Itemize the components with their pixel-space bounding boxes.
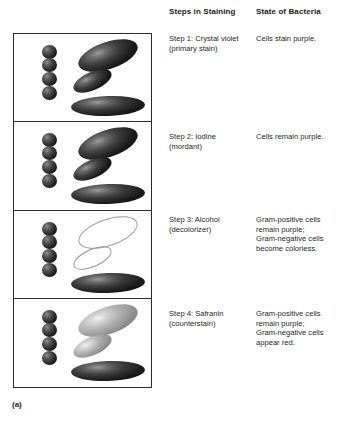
gram-stain-panel-stack: [13, 33, 152, 388]
coccus-cell: [42, 133, 57, 147]
coccus-cell: [42, 323, 57, 337]
panel-step-3: [14, 211, 151, 299]
bacillus-cell-wide: [71, 359, 146, 382]
coccus-cell: [42, 86, 57, 100]
panel-step-1: [14, 34, 151, 122]
coccus-cell: [42, 146, 57, 160]
column-header-steps: Steps in Staining: [169, 7, 236, 16]
coccus-cell: [42, 174, 57, 188]
coccus-cell: [42, 235, 57, 249]
state-label-3: Gram-positive cells remain purple; Gram-…: [256, 215, 352, 253]
step-label-1: Step 1: Crystal violet (primary stain): [169, 34, 253, 53]
bacillus-cell-wide: [71, 271, 146, 294]
coccus-cell: [42, 263, 57, 277]
figure-caption: (a): [12, 400, 22, 409]
bacillus-cell-wide: [71, 183, 146, 206]
coccus-cell: [42, 45, 57, 59]
state-label-4: Gram-positive cells remain purple; Gram-…: [256, 309, 352, 347]
coccus-cell: [42, 337, 57, 351]
step-label-4: Step 4: Safranin (counterstain): [169, 309, 253, 328]
coccus-cell: [42, 310, 57, 324]
bacillus-cell-wide: [71, 95, 146, 118]
coccus-cell: [42, 351, 57, 365]
coccus-cell: [42, 160, 57, 174]
coccus-cell: [42, 72, 57, 86]
step-label-2: Step 2: Iodine (mordant): [169, 132, 253, 151]
panel-step-4: [14, 299, 151, 387]
column-header-state: State of Bacteria: [256, 7, 321, 16]
coccus-cell: [42, 222, 57, 236]
coccus-cell: [42, 58, 57, 72]
state-label-2: Cells remain purple.: [256, 132, 352, 142]
coccus-cell: [42, 249, 57, 263]
panel-step-2: [14, 122, 151, 210]
state-label-1: Cells stain purple.: [256, 34, 352, 44]
step-label-3: Step 3: Alcohol (decolorizer): [169, 215, 253, 234]
